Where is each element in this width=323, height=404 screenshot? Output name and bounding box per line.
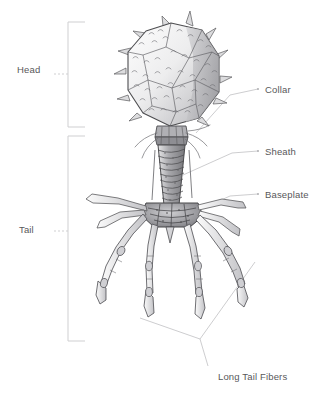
leader-fiber-down bbox=[200, 339, 208, 366]
head-bracket bbox=[52, 22, 85, 127]
label-baseplate: Baseplate bbox=[265, 189, 309, 200]
leader-fiber-left bbox=[140, 318, 200, 339]
label-head: Head bbox=[17, 64, 40, 75]
label-long-tail-fibers: Long Tail Fibers bbox=[218, 371, 287, 382]
capsid-head bbox=[114, 11, 232, 137]
label-tail: Tail bbox=[19, 224, 34, 235]
label-sheath: Sheath bbox=[265, 146, 296, 157]
leader-sheath bbox=[183, 151, 258, 175]
figure-canvas: Head Tail Collar Sheath Baseplate Long T… bbox=[0, 0, 323, 404]
label-collar: Collar bbox=[265, 84, 291, 95]
phage-illustration bbox=[0, 0, 323, 404]
sheath bbox=[152, 145, 192, 205]
tail-bracket bbox=[52, 136, 85, 341]
